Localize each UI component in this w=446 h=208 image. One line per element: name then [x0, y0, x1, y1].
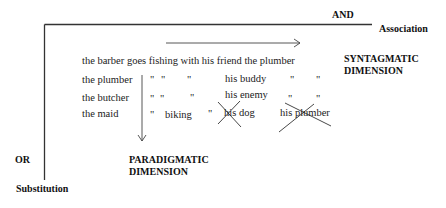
ditto: " — [316, 74, 320, 86]
crossed-object: his dog — [224, 107, 255, 119]
ditto: " — [150, 109, 154, 121]
ditto: " — [190, 92, 194, 104]
ditto: " — [288, 93, 292, 105]
ditto: " — [290, 74, 294, 86]
ditto: " — [150, 93, 154, 105]
row-subject: the maid — [82, 108, 118, 120]
paradigmatic-label-line2: DIMENSION — [129, 166, 188, 178]
ditto: " — [208, 108, 212, 120]
or-label: OR — [15, 154, 30, 166]
base-sentence: the barber goes fishing with his friend … — [82, 55, 295, 67]
ditto: " — [161, 74, 165, 86]
row-subject: the butcher — [82, 92, 129, 104]
paradigmatic-label-line1: PARADIGMATIC — [129, 154, 209, 166]
row-object: his enemy — [225, 89, 268, 101]
association-label: Association — [379, 23, 428, 35]
row-verb: biking — [165, 109, 192, 121]
ditto: " — [187, 74, 191, 86]
substitution-label: Substitution — [16, 183, 68, 195]
crossed-object: his plumber — [280, 107, 330, 119]
ditto: " — [160, 93, 164, 105]
row-object: his buddy — [225, 73, 266, 85]
syntagmatic-label-line2: DIMENSION — [344, 65, 403, 77]
ditto: " — [316, 93, 320, 105]
ditto: " — [150, 74, 154, 86]
syntagmatic-label-line1: SYNTAGMATIC — [344, 53, 419, 65]
and-label: AND — [332, 9, 354, 21]
row-subject: the plumber — [82, 74, 132, 86]
